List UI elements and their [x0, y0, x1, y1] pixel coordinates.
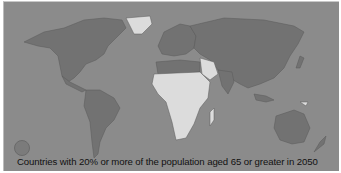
- australia: [274, 110, 310, 144]
- india: [218, 70, 234, 94]
- world-map: Countries with 20% or more of the popula…: [3, 1, 339, 171]
- papua-new-guinea: [300, 102, 308, 106]
- south-america: [84, 90, 120, 158]
- new-zealand: [314, 136, 326, 152]
- north-africa: [156, 60, 200, 74]
- sub-saharan-africa: [152, 72, 210, 140]
- japan: [296, 56, 304, 68]
- map-caption: Countries with 20% or more of the popula…: [17, 156, 318, 167]
- madagascar: [210, 108, 214, 126]
- legend-circle-icon: [14, 140, 30, 156]
- north-america: [24, 18, 126, 82]
- europe: [158, 24, 196, 56]
- indonesia: [254, 94, 274, 102]
- central-america: [62, 76, 86, 92]
- greenland: [126, 16, 152, 34]
- world-map-graphic: [4, 2, 339, 171]
